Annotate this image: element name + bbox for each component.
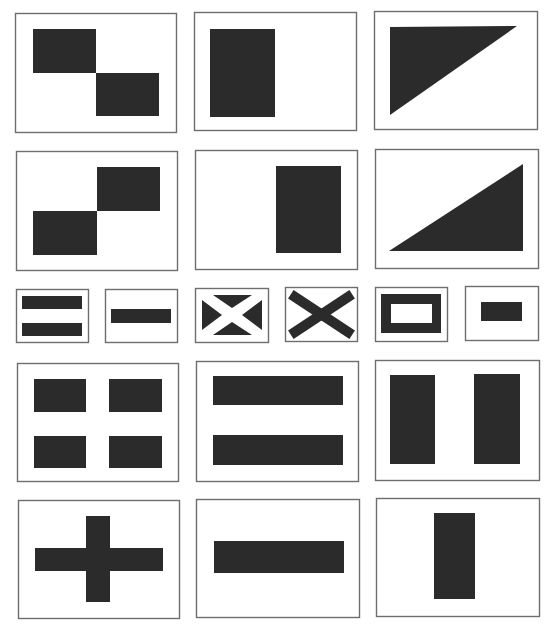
filled-rect [34,379,86,412]
panel-triangle-bottom-right [376,150,539,269]
panel-two-squares-diagonal-down [16,14,177,133]
filled-rect [210,29,275,117]
filled-rect [34,436,86,468]
filled-rect [111,309,171,323]
filled-rect [22,296,82,309]
panel-two-horizontal-bars [197,362,359,482]
panel-triangle-top-left [375,12,538,130]
filled-rect [97,167,160,211]
flag-pattern-grid [0,0,556,632]
filled-rect [481,302,522,321]
panel-vertical-block-right [196,151,358,270]
filled-rect [474,374,520,464]
panel-two-vertical-bars [376,361,540,481]
filled-rect [276,166,341,253]
filled-rect [434,513,475,599]
panel-small-two-bars [17,290,89,343]
panel-small-center-block [466,287,539,341]
panel-cross [19,501,180,619]
panel-vertical-block-left [195,13,357,131]
panel-small-saltire-dark [286,288,358,342]
filled-rect [213,435,343,465]
filled-rect [33,211,97,255]
panel-small-saltire-white [196,289,269,343]
panel-small-frame [376,288,448,342]
filled-rect [86,516,110,602]
filled-rect [214,541,344,573]
filled-rect [22,323,82,336]
filled-rect [213,376,343,405]
panel-single-horizontal-bar [197,500,360,618]
filled-rect [96,73,159,116]
inner-hole [391,304,432,323]
panel-two-squares-diagonal-up [17,152,178,271]
filled-rect [33,29,96,73]
panel-small-one-bar [106,290,178,343]
filled-rect [390,375,435,464]
filled-rect [109,379,162,412]
panel-four-blocks [18,364,179,482]
filled-rect [109,436,162,468]
panel-single-vertical-bar [377,499,540,617]
